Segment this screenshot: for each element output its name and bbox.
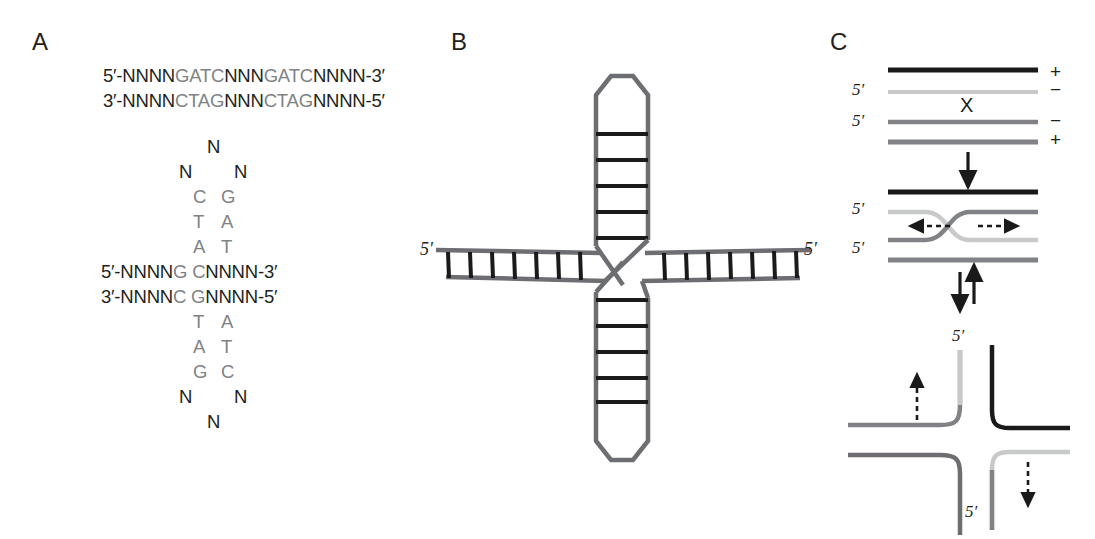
stage-top-5prime-label-1: 5′ bbox=[852, 81, 864, 98]
panel-a-duplex-bottom-strand: 3′-NNNNCTAGNNNCTAGNNNN-5′ bbox=[103, 92, 385, 111]
left-arm-rung bbox=[492, 252, 493, 278]
stage-top-5prime-label-2: 5′ bbox=[852, 112, 864, 129]
right-arm-rung bbox=[796, 251, 797, 278]
left-arm-rung bbox=[448, 252, 449, 278]
strand-sign-plus-bottom: + bbox=[1050, 130, 1061, 149]
junction-strand-light-gray bbox=[888, 212, 1038, 240]
cruciform-core-bottom-strand: 3′-NNNNC GNNNN-5′ bbox=[101, 288, 277, 307]
panel-c: C 5′ 5′ X + − − + 5′ 5′ 5′ 5′ bbox=[820, 0, 1095, 539]
stage-middle-5prime-label-1: 5′ bbox=[852, 200, 864, 217]
cruciform-bottom-stem-2-right: T bbox=[221, 338, 232, 357]
stage-bottom-5prime-bottom: 5′ bbox=[965, 503, 977, 520]
open-junction-arm-lower-left bbox=[848, 455, 960, 535]
cruciform-top-stem-1-left: C bbox=[193, 188, 206, 207]
cruciform-bottom-stem-2-left: A bbox=[193, 338, 205, 357]
right-arm-rung bbox=[730, 252, 731, 279]
cruciform-top-stem-3-right: T bbox=[221, 238, 232, 257]
duplex-bottom-site-1: CTAG bbox=[175, 90, 224, 111]
panel-a-duplex-top-strand: 5′-NNNNGATCNNNGATCNNNN-3′ bbox=[103, 67, 385, 86]
cruciform-bottom-loop-left: N bbox=[179, 388, 192, 407]
core-bottom-prefix: 3′-NNNN bbox=[101, 286, 173, 307]
left-arm-rung bbox=[558, 252, 559, 279]
open-junction-arm-lower-right bbox=[992, 452, 1070, 530]
duplex-top-suffix: NNNN-3′ bbox=[313, 65, 385, 86]
cruciform-top-stem-2-right: A bbox=[221, 213, 233, 232]
cruciform-bottom-loop-apex: N bbox=[207, 413, 220, 432]
stage-bottom-5prime-top: 5′ bbox=[952, 327, 964, 344]
right-arm-rung bbox=[774, 251, 775, 279]
cruciform-bottom-stem-1-right: A bbox=[221, 313, 233, 332]
cruciform-top-loop-apex: N bbox=[207, 138, 220, 157]
core-top-right-base: C bbox=[192, 261, 205, 282]
strand-sign-minus-upper: − bbox=[1050, 80, 1061, 99]
cruciform-diagram bbox=[420, 0, 840, 539]
duplex-top-prefix: 5′-NNNN bbox=[103, 65, 175, 86]
open-junction-arm-upper-left bbox=[848, 350, 960, 425]
cruciform-bottom-stem-3-left: G bbox=[193, 363, 207, 382]
left-arm-rung bbox=[514, 252, 515, 279]
panel-c-letter: C bbox=[830, 30, 847, 54]
stage-middle-5prime-label-2: 5′ bbox=[852, 239, 864, 256]
stage-bottom-open-junction bbox=[848, 345, 1070, 535]
right-arm-rung bbox=[686, 253, 687, 280]
top-hairpin-loop bbox=[596, 76, 648, 134]
left-arm-rung bbox=[470, 252, 471, 278]
right-arm-rung bbox=[708, 252, 709, 280]
right-arm-top-backbone bbox=[645, 250, 810, 253]
panel-b-left-5prime-label: 5′ bbox=[420, 240, 433, 258]
right-arm-rung bbox=[752, 252, 753, 279]
stage-middle-junction bbox=[888, 192, 1038, 260]
left-arm-rung bbox=[580, 252, 581, 280]
duplex-bottom-site-2: CTAG bbox=[264, 90, 313, 111]
cruciform-bottom-stem-3-right: C bbox=[221, 363, 234, 382]
open-junction-arm-upper-right bbox=[992, 345, 1070, 428]
bottom-hairpin-loop bbox=[596, 402, 648, 460]
figure-canvas: A 5′-NNNNGATCNNNGATCNNNN-3′ 3′-NNNNCTAGN… bbox=[0, 0, 1095, 539]
panel-b: B 5′ 5′ bbox=[420, 0, 840, 539]
left-arm-rung bbox=[536, 252, 537, 279]
crossover-x-mark: X bbox=[960, 95, 973, 115]
cruciform-top-loop-left: N bbox=[179, 163, 192, 182]
panel-b-letter: B bbox=[451, 30, 467, 54]
panel-b-right-5prime-label: 5′ bbox=[804, 240, 817, 258]
cruciform-top-stem-1-right: G bbox=[221, 188, 235, 207]
core-bottom-left-base: C bbox=[173, 286, 186, 307]
cruciform-top-stem-3-left: A bbox=[193, 238, 205, 257]
core-top-left-base: G bbox=[173, 261, 187, 282]
core-top-prefix: 5′-NNNN bbox=[101, 261, 173, 282]
duplex-top-middle: NNN bbox=[224, 65, 263, 86]
cruciform-core-top-strand: 5′-NNNNG CNNNN-3′ bbox=[101, 263, 277, 282]
duplex-top-site-2: GATC bbox=[264, 65, 313, 86]
strand-sign-minus-lower: − bbox=[1050, 111, 1061, 130]
cruciform-bottom-loop-right: N bbox=[234, 388, 247, 407]
core-bottom-suffix: NNNN-5′ bbox=[205, 286, 277, 307]
right-arm-rung bbox=[664, 253, 665, 280]
cruciform-top-loop-right: N bbox=[234, 163, 247, 182]
cruciform-top-stem-2-left: T bbox=[193, 213, 204, 232]
duplex-bottom-suffix: NNNN-5′ bbox=[313, 90, 385, 111]
panel-a: A 5′-NNNNGATCNNNGATCNNNN-3′ 3′-NNNNCTAGN… bbox=[0, 0, 430, 539]
left-arm-top-backbone bbox=[436, 250, 602, 253]
duplex-bottom-middle: NNN bbox=[224, 90, 263, 111]
duplex-bottom-prefix: 3′-NNNN bbox=[103, 90, 175, 111]
cruciform-bottom-stem-1-left: T bbox=[193, 313, 204, 332]
junction-connector-lower-right bbox=[642, 281, 648, 298]
core-top-suffix: NNNN-3′ bbox=[205, 261, 277, 282]
core-bottom-right-base: G bbox=[191, 286, 205, 307]
junction-strand-dark-gray bbox=[888, 212, 1038, 240]
duplex-top-site-1: GATC bbox=[175, 65, 224, 86]
panel-a-letter: A bbox=[32, 30, 48, 54]
equilibrium-arrows bbox=[960, 272, 974, 304]
